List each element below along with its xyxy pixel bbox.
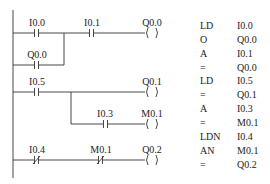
il-op: = bbox=[200, 63, 206, 73]
il-arg: I0.5 bbox=[237, 76, 253, 86]
il-op: O bbox=[200, 35, 207, 45]
il-arg: I0.4 bbox=[237, 132, 253, 142]
il-op: LDN bbox=[200, 132, 221, 142]
contact-label: I0.5 bbox=[29, 77, 45, 87]
contact-label: I0.1 bbox=[84, 18, 100, 28]
il-op: A bbox=[200, 49, 207, 59]
contact-label: Q0.0 bbox=[27, 50, 47, 60]
contact-nc-icon bbox=[97, 156, 104, 164]
il-arg: I0.1 bbox=[237, 49, 253, 59]
coil-icon bbox=[156, 28, 158, 38]
contact-no-icon bbox=[90, 29, 94, 37]
coil-label: Q0.2 bbox=[142, 145, 162, 155]
il-arg: I0.0 bbox=[237, 21, 253, 31]
coil-icon bbox=[147, 28, 149, 38]
il-arg: M0.1 bbox=[237, 118, 258, 128]
il-arg: Q0.1 bbox=[237, 90, 257, 100]
coil-label: Q0.0 bbox=[142, 18, 162, 28]
il-op: AN bbox=[200, 146, 214, 156]
coil-label: M0.1 bbox=[141, 109, 162, 119]
contact-no-icon bbox=[35, 61, 39, 69]
il-op: LD bbox=[200, 21, 213, 31]
contact-no-icon bbox=[35, 88, 39, 96]
il-arg: Q0.2 bbox=[237, 160, 257, 170]
contact-label: I0.0 bbox=[29, 18, 45, 28]
contact-label: I0.3 bbox=[97, 109, 113, 119]
il-op: LD bbox=[200, 76, 213, 86]
il-op: = bbox=[200, 90, 206, 100]
contact-no-icon bbox=[104, 120, 108, 128]
il-op: = bbox=[200, 160, 206, 170]
il-arg: Q0.0 bbox=[237, 35, 257, 45]
il-arg: I0.3 bbox=[237, 104, 253, 114]
contact-nc-icon bbox=[33, 156, 40, 164]
il-arg: Q0.0 bbox=[237, 63, 257, 73]
contact-no-icon bbox=[35, 29, 39, 37]
il-op: A bbox=[200, 104, 207, 114]
il-op: = bbox=[200, 118, 206, 128]
coil-label: Q0.1 bbox=[142, 77, 162, 87]
contact-label: I0.4 bbox=[29, 145, 45, 155]
contact-label: M0.1 bbox=[90, 145, 111, 155]
il-arg: M0.1 bbox=[237, 146, 258, 156]
